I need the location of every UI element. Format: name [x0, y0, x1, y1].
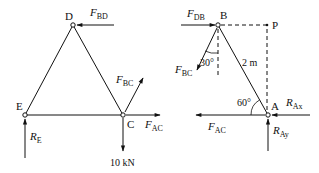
joint-B	[216, 23, 220, 27]
member-DE	[25, 25, 73, 115]
label-F-AC-left: FAC	[144, 118, 163, 133]
left-truss-diagram: D E C FBD FBC FAC RE 10 kN	[16, 6, 163, 168]
joint-C	[121, 113, 125, 117]
label-F-AC-right: FAC	[207, 120, 226, 135]
label-F-DB: FDB	[186, 7, 205, 22]
label-F-BD: FBD	[89, 6, 108, 21]
label-R-E: RE	[29, 130, 42, 145]
angle-arc-60	[251, 100, 260, 115]
label-10kN: 10 kN	[110, 157, 135, 168]
label-F-BC-right: FBC	[174, 63, 192, 78]
joint-D	[71, 23, 75, 27]
label-E: E	[16, 100, 23, 112]
joint-A	[266, 113, 270, 117]
angle-arc-30	[205, 51, 218, 53]
label-B: B	[220, 9, 227, 21]
label-R-Ax: RAx	[285, 96, 303, 111]
label-R-Ay: RAy	[272, 124, 289, 139]
label-F-BC-left: FBC	[115, 73, 133, 88]
joint-E	[23, 113, 27, 117]
label-C: C	[127, 118, 134, 130]
label-length-2m: 2 m	[242, 57, 258, 68]
right-joint-diagram: B P A FDB FBC 30° 2 m 60° FAC RAx RAy	[174, 7, 310, 151]
label-A: A	[271, 100, 279, 112]
label-P: P	[272, 19, 278, 31]
point-P	[266, 24, 269, 27]
label-D: D	[65, 10, 73, 22]
free-body-diagrams: D E C FBD FBC FAC RE 10 kN	[0, 0, 319, 173]
label-angle-60: 60°	[237, 97, 251, 108]
label-angle-30: 30°	[200, 57, 214, 68]
member-DC	[73, 25, 123, 115]
